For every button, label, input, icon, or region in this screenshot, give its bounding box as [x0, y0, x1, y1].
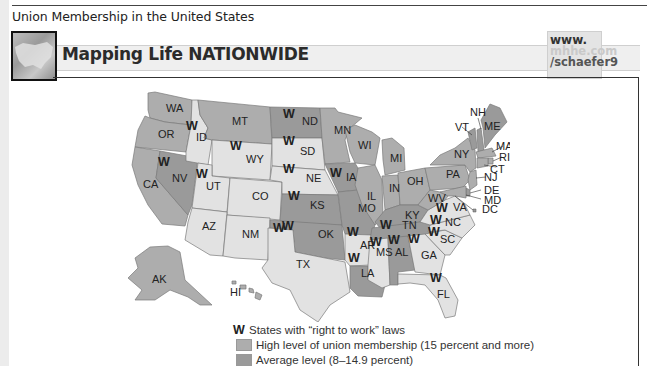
- legend-high-label: High level of union membership (15 perce…: [256, 339, 534, 351]
- rtw-marker-TN: W: [380, 218, 392, 232]
- banner-title: Mapping Life NATIONWIDE: [62, 44, 309, 64]
- legend-high: High level of union membership (15 perce…: [236, 337, 534, 352]
- legend-rtw-label: States with “right to work” laws: [249, 324, 405, 336]
- state-label-OK: OK: [318, 228, 335, 240]
- rtw-marker-ID: W: [186, 119, 198, 133]
- state-label-AL: AL: [395, 246, 408, 258]
- state-label-IA: IA: [346, 171, 357, 183]
- state-label-NM: NM: [242, 228, 259, 240]
- content-frame-top: [53, 77, 639, 78]
- state-label-DC: DC: [482, 203, 498, 215]
- state-label-MO: MO: [358, 202, 376, 214]
- rtw-marker-LA: W: [348, 251, 360, 265]
- legend-average: Average level (8–14.9 percent): [236, 352, 534, 366]
- state-label-VT: VT: [455, 121, 469, 133]
- rtw-marker-SD: W: [283, 134, 295, 148]
- high-swatch: [236, 339, 252, 351]
- rtw-marker-TX: W: [273, 221, 285, 235]
- rtw-marker-AR: W: [347, 225, 359, 239]
- state-label-TN: TN: [402, 219, 417, 231]
- rtw-marker-IA: W: [330, 166, 342, 180]
- state-label-FL: FL: [437, 288, 450, 300]
- page-margin-strip: [0, 0, 9, 366]
- rtw-marker-FL: W: [430, 271, 442, 285]
- rtw-marker-MS: W: [370, 235, 382, 249]
- state-label-OH: OH: [407, 175, 424, 187]
- dc-marker: [473, 209, 476, 212]
- state-NH: [477, 128, 484, 152]
- average-swatch: [236, 354, 252, 366]
- rtw-marker-ND: W: [283, 107, 295, 121]
- rtw-marker-VA: W: [436, 201, 448, 215]
- state-AK: [128, 246, 212, 305]
- state-label-MT: MT: [232, 115, 248, 127]
- rtw-marker-GA: W: [408, 232, 420, 246]
- state-label-IL: IL: [367, 190, 376, 202]
- page-title: Union Membership in the United States: [12, 9, 254, 24]
- content-frame-right: [638, 77, 639, 366]
- state-label-NV: NV: [172, 172, 188, 184]
- rtw-marker-NE: W: [283, 162, 295, 176]
- state-SD: [272, 138, 325, 170]
- rtw-marker-KS: W: [288, 189, 300, 203]
- url-line-3[interactable]: /schaefer9: [550, 56, 618, 68]
- state-label-NC: NC: [445, 216, 461, 228]
- us-map-thumbnail: [11, 31, 57, 81]
- state-label-AZ: AZ: [202, 220, 216, 232]
- state-DE: [466, 188, 470, 196]
- rtw-marker-AL: W: [388, 233, 400, 247]
- state-label-SC: SC: [440, 233, 455, 245]
- state-label-NE: NE: [306, 172, 321, 184]
- state-label-MI: MI: [390, 152, 402, 164]
- state-label-ND: ND: [302, 115, 318, 127]
- state-label-NJ: NJ: [484, 171, 497, 183]
- state-label-HI: HI: [230, 286, 241, 298]
- state-label-OR: OR: [158, 128, 175, 140]
- state-label-UT: UT: [206, 180, 221, 192]
- state-label-TX: TX: [296, 258, 311, 270]
- rtw-marker-NC: W: [430, 213, 442, 227]
- state-label-ME: ME: [484, 120, 501, 132]
- legend-average-label: Average level (8–14.9 percent): [256, 354, 413, 366]
- state-NJ: [468, 170, 477, 190]
- state-label-RI: RI: [499, 151, 510, 163]
- legend-rtw: W States with “right to work” laws: [236, 322, 534, 337]
- state-label-SD: SD: [300, 145, 315, 157]
- state-label-NH: NH: [470, 106, 486, 118]
- rtw-marker-UT: W: [196, 167, 208, 181]
- state-label-GA: GA: [421, 249, 438, 261]
- state-label-LA: LA: [361, 267, 375, 279]
- state-label-AK: AK: [152, 273, 167, 285]
- top-rule: [12, 5, 647, 6]
- state-label-KS: KS: [310, 199, 325, 211]
- state-label-CA: CA: [143, 178, 159, 190]
- state-label-WA: WA: [166, 102, 184, 114]
- state-label-NY: NY: [454, 148, 470, 160]
- state-label-PA: PA: [446, 168, 461, 180]
- state-CT: [477, 158, 488, 168]
- rtw-marker-WY: W: [230, 139, 242, 153]
- state-label-VA: VA: [453, 201, 468, 213]
- state-label-CO: CO: [252, 190, 269, 202]
- map-legend: W States with “right to work” laws High …: [236, 322, 534, 366]
- state-label-WY: WY: [246, 153, 264, 165]
- rtw-marker: W: [233, 323, 249, 337]
- state-AZ: [185, 208, 227, 256]
- rtw-marker-NV: W: [158, 155, 170, 169]
- state-label-MN: MN: [334, 124, 351, 136]
- us-union-map: WAORCANVIDMTWYUTCOAZNMNDSDNEKSOKTXMNIAMO…: [110, 80, 510, 322]
- state-label-IN: IN: [389, 182, 400, 194]
- state-label-WI: WI: [358, 139, 371, 151]
- rtw-marker-SC: W: [428, 225, 440, 239]
